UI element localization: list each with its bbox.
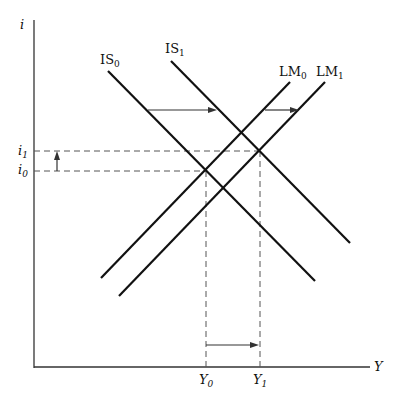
y1-tick-label: Y1 bbox=[253, 372, 267, 389]
i0-tick-label: i0 bbox=[18, 162, 28, 179]
is1-label: IS1 bbox=[165, 41, 185, 58]
y0-tick-label: Y0 bbox=[199, 372, 214, 389]
is-lm-diagram: i Y IS0 IS1 LM0 LM1 i1 i0 Y0 Y1 bbox=[0, 0, 402, 400]
lm1-label: LM1 bbox=[316, 64, 344, 81]
i1-tick-label: i1 bbox=[18, 143, 28, 160]
lm0-curve bbox=[101, 82, 290, 278]
is-shift-arrow bbox=[148, 107, 217, 113]
lm-shift-arrow bbox=[265, 107, 299, 113]
is0-label: IS0 bbox=[100, 52, 120, 69]
interest-rise-arrow bbox=[54, 151, 60, 171]
x-axis-label: Y bbox=[374, 359, 384, 374]
lm0-label: LM0 bbox=[279, 64, 307, 81]
y-axis-label: i bbox=[20, 17, 24, 32]
output-rise-arrow bbox=[206, 342, 259, 348]
